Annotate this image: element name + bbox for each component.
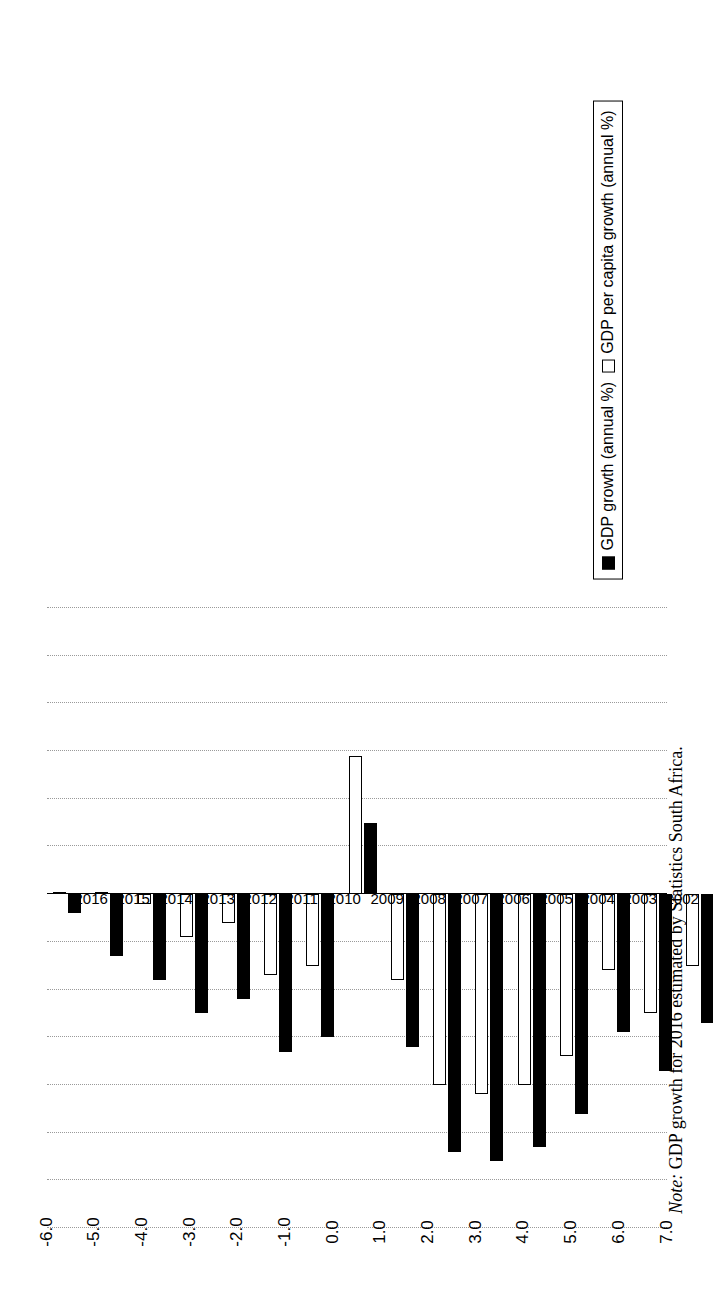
bar-gdp-per-capita [475,894,488,1094]
value-tick-label: -6.0 [37,1217,57,1246]
gridline [47,988,667,989]
value-tick-label: 6.0 [609,1220,629,1244]
bar-gdp-per-capita [517,894,530,1085]
value-tick-label: 5.0 [561,1220,581,1244]
value-tick-label: 7.0 [657,1220,677,1244]
legend-label: GDP growth (annual %) [599,382,617,551]
bar-gdp-growth [363,822,376,894]
value-tick-label: -2.0 [227,1217,247,1246]
bar-gdp-growth [152,894,165,980]
gridline [47,940,667,941]
bar-gdp-growth [405,894,418,1047]
legend-item: GDP growth (annual %) [599,382,617,570]
value-tick-label: 0.0 [323,1220,343,1244]
chart-legend: GDP growth (annual %)GDP per capita grow… [593,100,623,579]
bar-gdp-growth [532,894,545,1147]
value-tick-label: 3.0 [466,1220,486,1244]
gridline [47,654,667,655]
year-tick-label: 2001 [707,890,713,905]
value-tick-label: -4.0 [132,1217,152,1246]
bar-gdp-growth [448,894,461,1152]
gridline [47,750,667,751]
bar-gdp-per-capita [390,894,403,980]
value-tick-label: -1.0 [275,1217,295,1246]
value-tick-label: 4.0 [513,1220,533,1244]
note-text: GDP growth for 2016 estimated by Statist… [666,746,686,1169]
bar-gdp-growth [194,894,207,1013]
plot-stage: 1990199119921993199419951996199719981999… [47,88,667,1228]
note-label: Note: [666,1174,686,1214]
gridline [47,1036,667,1037]
bar-gdp-growth [701,894,713,1023]
chart-note: Note: GDP growth for 2016 estimated by S… [666,746,687,1213]
zero-axis-line [47,893,667,894]
gridline [47,607,667,608]
gridline [47,1131,667,1132]
bar-gdp-per-capita [433,894,446,1085]
value-tick-label: 1.0 [370,1220,390,1244]
bar-gdp-growth [279,894,292,1051]
gridline [47,1179,667,1180]
legend-item: GDP per capita growth (annual %) [599,110,617,372]
legend-swatch-filled-icon [602,557,615,570]
bar-gdp-growth [617,894,630,1032]
bar-gdp-per-capita [559,894,572,1056]
value-tick-label: -5.0 [84,1217,104,1246]
value-tick-label: 2.0 [418,1220,438,1244]
legend-swatch-hollow-icon [602,360,615,373]
bar-gdp-per-capita [644,894,657,1013]
bar-gdp-per-capita [348,755,361,893]
plot-area: 1990199119921993199419951996199719981999… [47,88,667,1228]
gridline [47,702,667,703]
bar-gdp-growth [490,894,503,1161]
chart-figure: 1990199119921993199419951996199719981999… [0,0,713,1315]
legend-label: GDP per capita growth (annual %) [599,110,617,353]
value-tick-label: -3.0 [180,1217,200,1246]
bar-gdp-growth [237,894,250,999]
gridline [47,1083,667,1084]
bar-gdp-growth [321,894,334,1037]
bar-gdp-growth [574,894,587,1113]
